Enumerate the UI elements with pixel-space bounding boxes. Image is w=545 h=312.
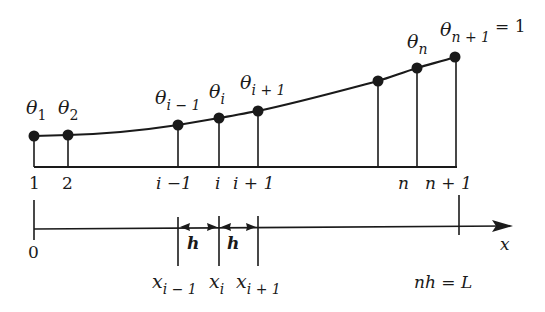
label-theta-i-minus-1: θi − 1 [155, 88, 200, 107]
index-i-minus-1: i −1 [156, 175, 192, 192]
label-x-i-plus-1: xi + 1 [236, 272, 281, 291]
index-1: 1 [29, 175, 40, 192]
x-axis-line [34, 226, 505, 229]
index-i-plus-1: i + 1 [233, 175, 274, 192]
label-theta-2: θ2 [58, 98, 78, 117]
index-i: i [215, 175, 220, 192]
origin-label: 0 [28, 244, 39, 261]
index-n: n [398, 175, 409, 192]
node-dots [29, 52, 461, 142]
index-n-plus-1: n + 1 [425, 175, 472, 192]
length-label: nh = L [414, 274, 472, 291]
index-2: 2 [62, 175, 73, 192]
theta-curve [34, 57, 455, 136]
label-theta-i: θi [209, 82, 225, 101]
label-theta-n-plus-1: θn + 1 = 1 [440, 20, 526, 39]
label-theta-1: θ1 [26, 98, 46, 117]
label-theta-n: θn [407, 32, 427, 51]
spacing-label-h-1: h [187, 235, 199, 252]
spacing-label-h-2: h [227, 235, 239, 252]
axis-label-x: x [500, 236, 510, 253]
boundary-value: = 1 [495, 16, 525, 36]
finite-difference-diagram: θ1 θ2 θi − 1 θi θi + 1 θn θn + 1 = 1 1 2… [0, 0, 545, 312]
label-theta-i-plus-1: θi + 1 [240, 73, 285, 92]
diagram-graphics [0, 0, 545, 312]
label-x-i-minus-1: xi − 1 [152, 272, 197, 291]
label-x-i: xi [209, 272, 224, 291]
